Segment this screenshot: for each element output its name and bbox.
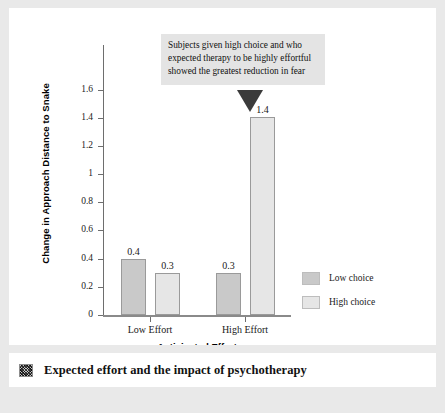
y-tick-0.8: 0.8 (9, 202, 103, 203)
annotation-line-2: expected therapy to be highly effortful (168, 52, 318, 65)
x-axis-line (103, 315, 291, 317)
y-tick-1: 1 (9, 174, 103, 175)
y-tick-0.2: 0.2 (9, 287, 103, 288)
bar-high-effort-high-choice[interactable] (250, 117, 275, 315)
y-tick-label: 0.8 (47, 197, 93, 207)
annotation-line-1: Subjects given high choice and who (168, 39, 318, 52)
y-tick-1.6: 1.6 (9, 90, 103, 91)
legend-label: High choice (329, 297, 375, 307)
figure-root: Change in Approach Distance to Snake 1.6… (0, 0, 445, 413)
bar-value-label: 0.3 (155, 261, 180, 271)
bar-value-label: 0.4 (121, 247, 146, 257)
y-tick-0.4: 0.4 (9, 259, 103, 260)
x-axis-title: Anticipated Effort (103, 341, 291, 345)
y-tick-label: 0.4 (47, 254, 93, 264)
y-tick-label: 0.6 (47, 225, 93, 235)
annotation-callout: Subjects given high choice and who expec… (161, 34, 325, 85)
x-tickmark-high-effort (245, 317, 246, 322)
chart-panel: Change in Approach Distance to Snake 1.6… (9, 8, 436, 345)
y-tick-label: 1.4 (47, 113, 93, 123)
y-tick-label: 1.6 (47, 85, 93, 95)
x-category-label-low-effort: Low Effort (110, 325, 190, 335)
y-tick-label: 0.2 (47, 282, 93, 292)
bar-low-effort-low-choice[interactable] (121, 259, 146, 315)
legend-swatch-icon (302, 272, 320, 285)
annotation-arrow-icon (237, 90, 263, 112)
bar-low-effort-high-choice[interactable] (155, 273, 180, 315)
y-tick-0.6: 0.6 (9, 230, 103, 231)
annotation-line-3: showed the greatest reduction in fear (168, 65, 318, 78)
chart-legend: Low choice High choice (302, 266, 375, 314)
y-tick-label: 1.2 (47, 141, 93, 151)
bars-layer: 0.4 0.3 0.3 1.4 (103, 45, 293, 315)
bar-high-effort-low-choice[interactable] (216, 273, 241, 315)
legend-item-high-choice[interactable]: High choice (302, 290, 375, 314)
legend-item-low-choice[interactable]: Low choice (302, 266, 375, 290)
y-tick-1.2: 1.2 (9, 146, 103, 147)
y-tick-0: 0 (9, 315, 103, 316)
y-tick-1.4: 1.4 (9, 118, 103, 119)
legend-label: Low choice (329, 273, 374, 283)
y-tick-label: 0 (47, 310, 93, 320)
caption-panel: Expected effort and the impact of psycho… (9, 353, 436, 387)
pixel-thumbnail-icon (19, 364, 33, 377)
bar-value-label: 0.3 (216, 261, 241, 271)
x-category-label-high-effort: High Effort (205, 325, 285, 335)
caption-text: Expected effort and the impact of psycho… (44, 363, 307, 378)
legend-swatch-icon (302, 296, 320, 309)
y-axis-ticks: 1.6 1.4 1.2 1 0.8 0.6 (9, 8, 103, 328)
y-tick-label: 1 (47, 169, 93, 179)
x-tickmark-low-effort (150, 317, 151, 322)
